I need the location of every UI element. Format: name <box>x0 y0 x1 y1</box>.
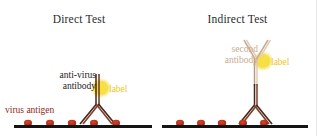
caption-label-direct: label <box>109 84 127 95</box>
caption-anti-virus-line1: anti-virus <box>18 70 96 81</box>
panel-direct-test: Direct Test <box>0 0 158 136</box>
caption-label-indirect: label <box>271 57 289 68</box>
panel-indirect-test: Indirect Test <box>158 0 317 136</box>
immunoassay-diagram: Direct Test <box>0 0 317 136</box>
indirect-test-graphic <box>158 0 317 136</box>
caption-virus-antigen: virus antigen <box>5 105 54 116</box>
primary-antibody-shape-indirect <box>239 84 272 124</box>
caption-second-antibody: second antibody <box>182 44 258 66</box>
caption-second-antibody-line1: second <box>182 44 258 55</box>
caption-anti-virus-line2: antibody <box>18 81 96 92</box>
caption-second-antibody-line2: antibody <box>182 55 258 66</box>
caption-anti-virus-antibody: anti-virus antibody <box>18 70 96 92</box>
